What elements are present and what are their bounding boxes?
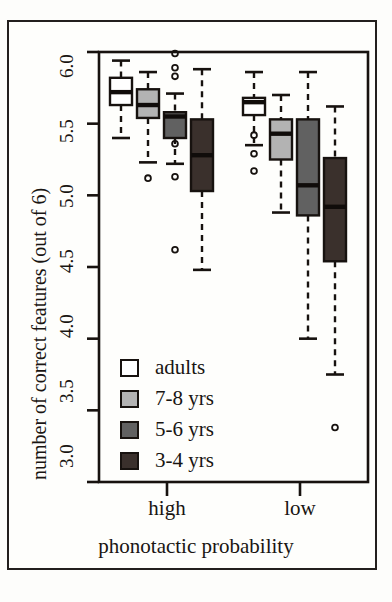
boxplot-canvas xyxy=(0,0,392,602)
axis-layer xyxy=(87,52,368,496)
outlier-point-1 xyxy=(172,65,178,71)
boxplot-adults-low xyxy=(243,72,265,174)
outlier-point-0 xyxy=(332,425,338,431)
outlier-point-0 xyxy=(251,132,257,138)
boxplot-5-6-yrs-low xyxy=(297,72,319,339)
boxplot-3-4-yrs-high xyxy=(191,69,213,270)
box-body xyxy=(270,119,292,159)
outlier-point-0 xyxy=(172,51,178,57)
outlier-point-1 xyxy=(251,151,257,157)
outlier-point-5 xyxy=(172,247,178,253)
boxplot-3-4-yrs-low xyxy=(324,106,346,430)
outlier-point-4 xyxy=(172,174,178,180)
boxplot-adults-high xyxy=(110,61,132,138)
box-body xyxy=(324,158,346,261)
outlier-point-2 xyxy=(251,168,257,174)
figure-container: 6.0 5.5 5.0 4.5 4.0 3.5 3.0 number of co… xyxy=(0,0,392,602)
boxplot-5-6-yrs-high xyxy=(164,51,186,253)
box-layer xyxy=(110,51,346,431)
box-body xyxy=(297,119,319,215)
boxplot-7-8-yrs-high xyxy=(137,72,159,181)
boxplot-7-8-yrs-low xyxy=(270,95,292,213)
outlier-point-0 xyxy=(145,175,151,181)
outlier-point-2 xyxy=(172,73,178,79)
